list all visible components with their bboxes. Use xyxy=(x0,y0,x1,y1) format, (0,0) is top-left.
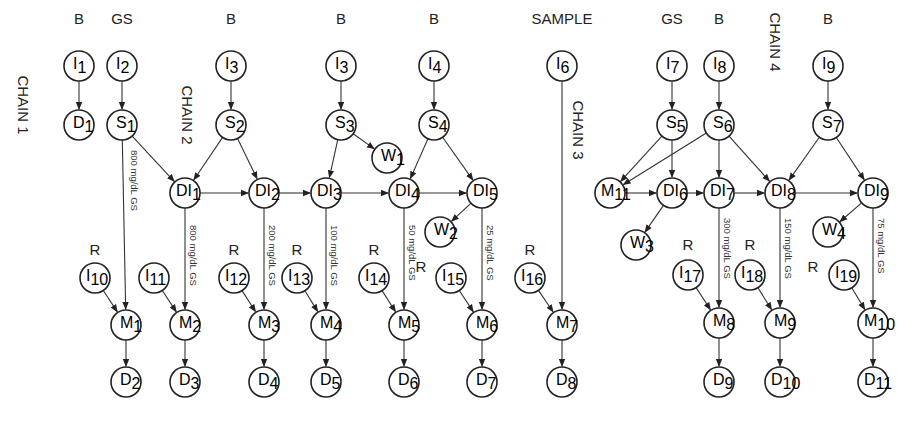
edge-S6-DI8 xyxy=(729,136,769,181)
concentration-label: 800 mg/dL GS xyxy=(188,225,199,286)
node-M7: M7 xyxy=(547,310,578,340)
edge-S4-DI5 xyxy=(443,137,473,180)
node-M9: M9 xyxy=(765,308,796,338)
node-D8: D8 xyxy=(547,367,577,397)
input-type-label: GS xyxy=(111,10,133,27)
node-I9: I9 xyxy=(813,51,843,81)
node-M10: M10 xyxy=(858,308,895,338)
input-type-label: R xyxy=(745,236,756,253)
input-type-label: SAMPLE xyxy=(532,10,593,27)
edge-S4-DI4 xyxy=(410,139,427,179)
node-S5: S5 xyxy=(657,110,687,140)
node-DI9: DI9 xyxy=(858,178,889,208)
input-type-label: B xyxy=(823,10,833,27)
concentration-label: 800 mg/dL GS xyxy=(129,150,140,211)
concentration-label: 300 mg/dL GS xyxy=(722,218,733,279)
node-D7: D7 xyxy=(467,367,497,397)
node-M6: M6 xyxy=(467,310,498,340)
input-type-label: R xyxy=(369,241,380,258)
node-M1: M1 xyxy=(111,310,142,340)
node-I12: I12 xyxy=(219,263,249,293)
edge-I16-M7 xyxy=(538,290,553,311)
input-type-label: R xyxy=(292,241,303,258)
input-type-label: B xyxy=(336,10,346,27)
node-DI8: DI8 xyxy=(765,178,796,208)
node-I15: I15 xyxy=(436,263,466,293)
node-W1: W1 xyxy=(372,143,405,173)
node-I3a: I3 xyxy=(216,51,246,81)
node-S2: S2 xyxy=(216,110,246,140)
node-D2: D2 xyxy=(111,367,141,397)
node-I13: I13 xyxy=(282,263,312,293)
input-type-label: R xyxy=(90,241,101,258)
input-type-label: GS xyxy=(661,10,683,27)
node-W2: W2 xyxy=(425,217,458,247)
node-I17: I17 xyxy=(673,260,703,290)
node-DI7: DI7 xyxy=(704,178,735,208)
input-type-label: R xyxy=(808,258,819,275)
node-I10: I10 xyxy=(80,263,110,293)
edge-S7-DI9 xyxy=(836,138,864,180)
node-W3: W3 xyxy=(621,230,654,260)
edge-I15-M6 xyxy=(459,291,473,312)
node-D1: D1 xyxy=(64,110,94,140)
node-D3: D3 xyxy=(170,367,200,397)
input-type-label: B xyxy=(226,10,236,27)
node-I8: I8 xyxy=(704,51,734,81)
node-D4: D4 xyxy=(249,367,279,397)
chain-label: CHAIN 2 xyxy=(179,85,196,144)
node-M4: M4 xyxy=(311,310,342,340)
node-I14: I14 xyxy=(359,263,389,293)
edge-S3-W1 xyxy=(353,134,374,149)
node-M8: M8 xyxy=(704,308,735,338)
input-type-label: B xyxy=(714,10,724,27)
node-D5: D5 xyxy=(311,367,341,397)
node-S6: S6 xyxy=(704,110,734,140)
edge-I13-M4 xyxy=(305,291,318,312)
edge-S2-DI1 xyxy=(194,137,223,179)
chain-label: CHAIN 3 xyxy=(570,100,587,159)
concentration-label: 150 mg/dL GS xyxy=(783,218,794,279)
node-DI5: DI5 xyxy=(467,178,498,208)
node-I6: I6 xyxy=(547,51,577,81)
node-S4: S4 xyxy=(419,110,449,140)
diagram-canvas: 800 mg/dL GS800 mg/dL GS200 mg/dL GS100 … xyxy=(0,0,922,421)
node-I3b: I3 xyxy=(326,51,356,81)
node-DI3: DI3 xyxy=(311,178,342,208)
node-M5: M5 xyxy=(389,310,420,340)
concentration-label: 200 mg/dL GS xyxy=(267,225,278,286)
edge-DI6-W3 xyxy=(645,205,663,232)
edge-S3-DI3 xyxy=(329,140,337,178)
node-S7: S7 xyxy=(813,110,843,140)
edge-S2-DI2 xyxy=(238,138,257,178)
node-D9: D9 xyxy=(704,367,734,397)
node-DI1: DI1 xyxy=(170,178,201,208)
input-type-label: B xyxy=(74,10,84,27)
node-I7: I7 xyxy=(657,51,687,81)
chain-label: CHAIN 4 xyxy=(767,12,784,71)
node-I11: I11 xyxy=(139,263,169,293)
edge-S7-DI8 xyxy=(789,137,819,180)
input-type-label: R xyxy=(416,258,427,275)
edge-I14-M5 xyxy=(382,291,395,312)
node-S3: S3 xyxy=(326,110,356,140)
node-S1: S1 xyxy=(107,110,137,140)
node-DI2: DI2 xyxy=(249,178,280,208)
edge-I12-M3 xyxy=(242,291,255,312)
concentration-label: 75 mg/dL GS xyxy=(876,218,887,274)
node-D6: D6 xyxy=(389,367,419,397)
input-type-label: B xyxy=(429,10,439,27)
input-type-label: R xyxy=(683,236,694,253)
flow-diagram: 800 mg/dL GS800 mg/dL GS200 mg/dL GS100 … xyxy=(0,0,922,421)
node-I19: I19 xyxy=(829,260,859,290)
edge-I11-M2 xyxy=(162,291,176,312)
node-W4: W4 xyxy=(813,217,846,247)
chain-label: CHAIN 1 xyxy=(15,75,32,134)
node-DI6: DI6 xyxy=(657,178,688,208)
edge-DI9-W4 xyxy=(840,203,862,222)
node-M11: M11 xyxy=(595,178,631,208)
node-M2: M2 xyxy=(170,310,201,340)
edge-DI5-W2 xyxy=(452,203,471,221)
node-I16: I16 xyxy=(515,263,545,293)
input-type-label: R xyxy=(525,241,536,258)
